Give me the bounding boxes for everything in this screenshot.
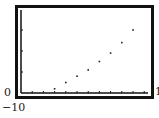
data-point xyxy=(110,52,112,54)
data-point xyxy=(99,61,101,63)
data-point xyxy=(132,29,134,31)
data-point xyxy=(65,82,67,84)
data-point xyxy=(76,75,78,77)
data-point xyxy=(54,88,56,90)
data-point xyxy=(121,42,123,44)
data-point xyxy=(87,69,89,71)
xmax-label: 1 xyxy=(155,86,159,97)
xmin-label: 0 xyxy=(4,87,11,98)
ymin-label: −10 xyxy=(2,102,25,113)
